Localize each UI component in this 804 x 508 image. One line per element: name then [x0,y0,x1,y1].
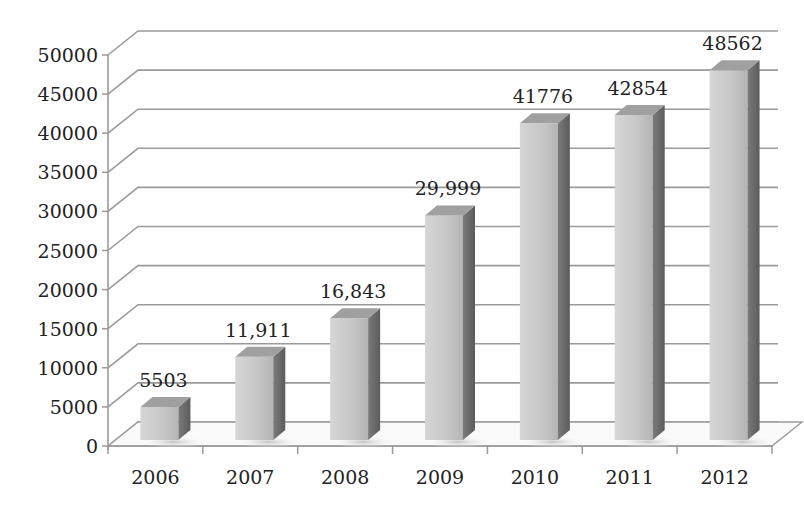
y-axis: 0500010000150002000025000300003500040000… [38,44,108,457]
y-tick-label: 50000 [38,44,98,66]
y-tick-label: 15000 [38,318,98,340]
y-tick-label: 45000 [38,83,98,105]
y-tick-label: 40000 [38,122,98,144]
data-label: 48562 [702,32,762,54]
y-tick-label: 0 [86,435,98,457]
y-tick-label: 20000 [38,279,98,301]
x-axis: 2006200720082009201020112012 [108,446,772,488]
bar-chart: 0500010000150002000025000300003500040000… [0,0,804,508]
x-tick-label: 2009 [416,466,464,488]
bar: 29,999 [415,177,492,448]
bar: 48562 [702,32,776,448]
y-tick-label: 5000 [50,396,98,418]
y-tick-label: 35000 [38,161,98,183]
bars: 550311,91116,84329,999417764285448562 [139,32,777,448]
y-tick-label: 30000 [38,200,98,222]
y-tick-label: 10000 [38,357,98,379]
x-tick-label: 2007 [226,466,274,488]
x-tick-label: 2008 [321,466,369,488]
gridline [108,31,778,55]
data-label: 41776 [513,85,573,107]
gridline [108,148,778,172]
y-tick-label: 25000 [38,240,98,262]
bar: 42854 [607,77,681,448]
x-tick-label: 2011 [606,466,654,488]
data-label: 42854 [607,77,667,99]
bar: 41776 [513,85,587,448]
x-tick-label: 2010 [511,466,559,488]
gridline [108,109,778,133]
x-tick-label: 2012 [700,466,748,488]
data-label: 29,999 [415,177,481,199]
x-tick-label: 2006 [131,466,179,488]
data-label: 5503 [139,369,187,391]
gridline [108,70,778,94]
data-label: 16,843 [320,280,386,302]
data-label: 11,911 [225,319,291,341]
